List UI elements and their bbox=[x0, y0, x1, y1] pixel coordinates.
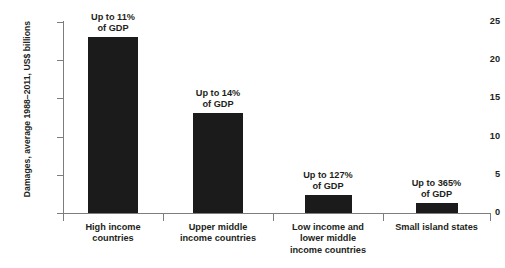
category-label-line: lower middle bbox=[258, 233, 398, 244]
bar-value-annotation: Up to 11%of GDP bbox=[53, 12, 173, 34]
category-label-line: income countries bbox=[258, 245, 398, 256]
bar-annotation-line-1: Up to 14% bbox=[196, 88, 240, 98]
x-axis-tick-mark bbox=[273, 214, 274, 221]
bar-value-annotation: Up to 127%of GDP bbox=[268, 170, 388, 192]
bar-annotation-line-2: of GDP bbox=[268, 181, 388, 192]
bar-annotation-line-2: of GDP bbox=[53, 23, 173, 34]
x-axis-tick-mark bbox=[490, 214, 491, 221]
bar-annotation-line-1: Up to 11% bbox=[91, 12, 135, 22]
bar-value-annotation: Up to 14%of GDP bbox=[158, 88, 278, 110]
bar bbox=[305, 195, 352, 213]
bar bbox=[416, 203, 458, 213]
y-axis-title: Damages, average 1988–2011, US$ billions bbox=[22, 14, 32, 204]
category-label-line: Small island states bbox=[367, 222, 505, 233]
bar bbox=[88, 37, 138, 213]
bar-value-annotation: Up to 365%of GDP bbox=[377, 178, 497, 200]
x-axis-tick-mark bbox=[383, 214, 384, 221]
bar-annotation-line-2: of GDP bbox=[158, 99, 278, 110]
x-axis-tick-mark bbox=[163, 214, 164, 221]
x-axis-line bbox=[63, 213, 491, 214]
x-axis-tick-mark bbox=[63, 214, 64, 221]
bar-annotation-line-2: of GDP bbox=[377, 189, 497, 200]
bar-annotation-line-1: Up to 365% bbox=[412, 178, 462, 188]
bar-annotation-line-1: Up to 127% bbox=[303, 170, 353, 180]
bar bbox=[193, 113, 243, 213]
x-axis-category-label: Small island states bbox=[367, 222, 505, 233]
